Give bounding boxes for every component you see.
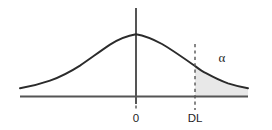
decision-limit-tick-label: DL	[188, 112, 203, 124]
distribution-chart-svg: 0 DL α	[0, 0, 272, 130]
origin-tick-label: 0	[133, 112, 139, 124]
statistical-distribution-figure: 0 DL α	[0, 0, 272, 130]
alpha-annotation-label: α	[219, 50, 226, 65]
